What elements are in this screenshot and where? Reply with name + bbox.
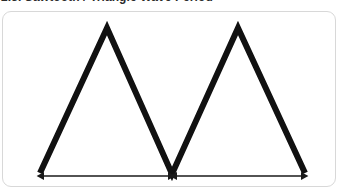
figure-card [2, 11, 336, 187]
triangle-waveform-path [40, 28, 305, 174]
waveform-figure [3, 12, 336, 187]
caption-text: 2.3. Sawtooth / Triangle Wave Period [1, 0, 213, 4]
screenshot-root: 2.3. Sawtooth / Triangle Wave Period [0, 0, 348, 195]
caption-strip: 2.3. Sawtooth / Triangle Wave Period [0, 0, 348, 5]
